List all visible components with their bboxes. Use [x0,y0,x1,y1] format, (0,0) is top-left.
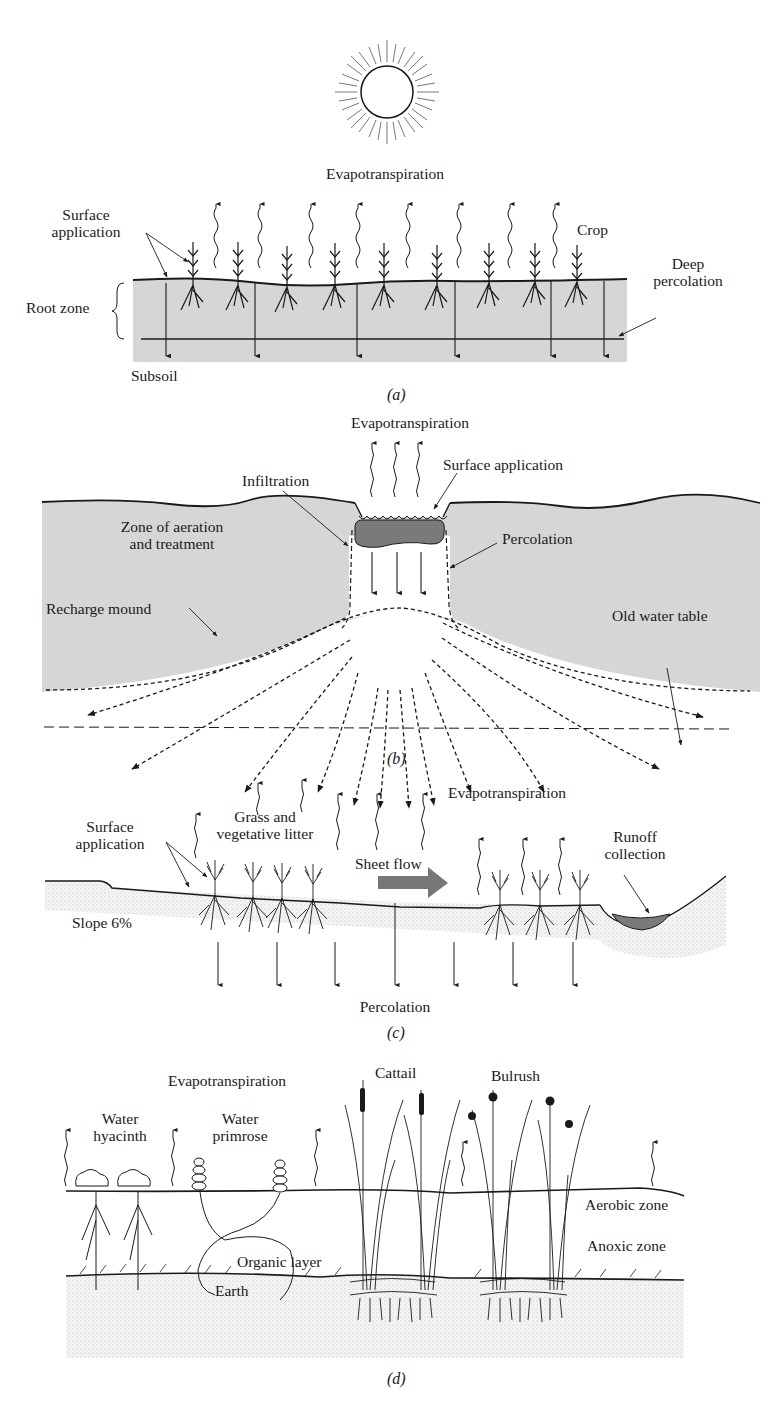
label-runoff-collection: Runoff collection [590,828,680,862]
label-water-primrose: Water primrose [195,1110,285,1144]
panel-a [112,40,656,362]
label-line: percolation [638,272,738,289]
label-crop: Crop [577,221,608,238]
label-line: Water [195,1110,285,1127]
label-evapotranspiration-a: Evapotranspiration [300,165,470,182]
label-bulrush: Bulrush [491,1067,540,1084]
label-water-hyacinth: Water hyacinth [75,1110,165,1144]
label-line: vegetative litter [190,825,340,842]
sun-icon [335,40,439,144]
label-surface-application-b: Surface application [443,456,563,473]
label-percolation-b: Percolation [502,530,573,547]
caption-b: (b) [387,750,406,768]
label-line: Zone of aeration [92,518,252,535]
evapotranspiration-arrows [214,204,557,268]
label-line: collection [590,845,680,862]
label-aerobic-zone: Aerobic zone [585,1196,668,1213]
label-percolation-c: Percolation [340,998,450,1015]
label-deep-percolation: Deep percolation [638,255,738,289]
label-surface-application-c: Surface application [60,818,160,852]
label-line: application [60,835,160,852]
caption-c: (c) [387,1024,405,1042]
label-slope: Slope 6% [72,914,132,931]
label-cattail: Cattail [375,1064,416,1081]
label-sheet-flow: Sheet flow [355,855,422,872]
label-line: Deep [638,255,738,272]
label-zone-of-aeration: Zone of aeration and treatment [92,518,252,552]
label-anoxic-zone: Anoxic zone [587,1237,666,1254]
label-organic-layer: Organic layer [237,1253,322,1270]
label-root-zone: Root zone [26,299,89,316]
label-surface-application-a: Surface application [36,206,136,240]
panel-c [45,780,726,985]
label-infiltration: Infiltration [242,472,309,489]
caption-d: (d) [387,1370,406,1388]
label-earth: Earth [215,1282,249,1299]
label-line: Surface [36,206,136,223]
label-grass-litter: Grass and vegetative litter [190,808,340,842]
label-evapotranspiration-b: Evapotranspiration [325,414,495,431]
label-subsoil: Subsoil [131,367,178,384]
label-line: Runoff [590,828,680,845]
label-old-water-table: Old water table [612,607,708,624]
label-line: Surface [60,818,160,835]
label-line: Water [75,1110,165,1127]
label-line: and treatment [92,535,252,552]
caption-a: (a) [387,386,406,404]
label-evapotranspiration-c: Evapotranspiration [448,784,566,801]
label-line: hyacinth [75,1127,165,1144]
label-evapotranspiration-d: Evapotranspiration [168,1072,286,1089]
label-line: primrose [195,1127,285,1144]
label-line: application [36,223,136,240]
label-recharge-mound: Recharge mound [46,600,151,617]
label-line: Grass and [190,808,340,825]
